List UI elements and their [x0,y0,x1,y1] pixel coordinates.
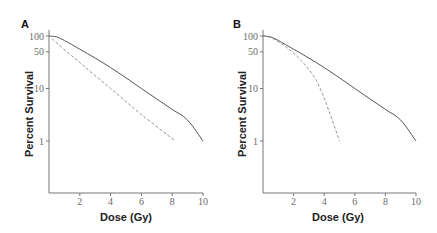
y-tick-label: 50 [248,46,258,57]
x-axis-title: Dose (Gy) [312,211,364,223]
x-tick-label: 10 [198,196,208,207]
dashed-survival-curve [263,36,340,141]
panel-label: A [21,18,29,30]
x-tick-label: 8 [383,196,388,207]
x-tick-label: 4 [108,196,113,207]
y-axis-title: Percent Survival [236,71,248,157]
solid-survival-curve [263,36,416,141]
dashed-survival-curve [52,39,175,141]
y-tick-label: 1 [39,136,44,147]
y-tick-label: 1 [253,136,258,147]
x-axis-title: Dose (Gy) [100,211,152,223]
x-tick-label: 10 [411,196,421,207]
x-tick-label: 2 [291,196,296,207]
y-tick-label: 10 [248,83,258,94]
y-tick-label: 50 [34,46,44,57]
y-tick-label: 100 [243,31,258,42]
x-tick-label: 2 [77,196,82,207]
panel-a: A Percent Survival Dose (Gy) 10050101246… [21,18,208,223]
x-tick-label: 6 [139,196,144,207]
survival-curves-figure: A Percent Survival Dose (Gy) 10050101246… [0,0,437,233]
y-tick-label: 10 [34,83,44,94]
x-tick-label: 8 [170,196,175,207]
solid-survival-curve [49,36,203,141]
panel-label: B [233,18,241,30]
x-tick-label: 6 [352,196,357,207]
y-tick-label: 100 [29,31,44,42]
x-tick-label: 4 [322,196,327,207]
panel-b: B Percent Survival Dose (Gy) 10050101246… [233,18,421,223]
